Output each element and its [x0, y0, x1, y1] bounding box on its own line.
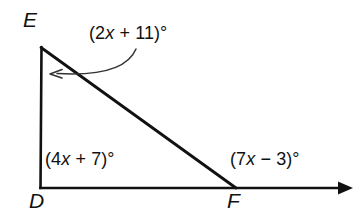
figure-drawing [0, 0, 364, 220]
angle-expr-F-variable: x [246, 149, 255, 169]
angle-expression-exterior-at-F: (7x − 3)° [230, 150, 300, 168]
angle-expr-D-suffix: + 7)° [70, 149, 114, 169]
angle-expr-D-prefix: (4 [45, 149, 61, 169]
vertex-label-D: D [29, 190, 44, 211]
pointer-arrow-curve [57, 49, 136, 74]
angle-expression-at-D: (4x + 7)° [45, 150, 115, 168]
segment-DE [41, 47, 42, 188]
vertex-label-F: F [227, 190, 240, 211]
angle-expr-E-suffix: + 11)° [114, 23, 167, 43]
angle-expression-at-E: (2x + 11)° [89, 24, 167, 42]
vertex-label-E: E [23, 9, 37, 30]
angle-expr-D-variable: x [61, 149, 70, 169]
angle-expr-E-prefix: (2 [89, 23, 105, 43]
angle-expr-F-prefix: (7 [230, 149, 246, 169]
geometry-figure-canvas: E D F (2x + 11)° (4x + 7)° (7x − 3)° [0, 0, 364, 220]
ray-arrowhead-icon [338, 182, 353, 195]
angle-expr-F-suffix: − 3)° [255, 149, 299, 169]
angle-expr-E-variable: x [105, 23, 114, 43]
